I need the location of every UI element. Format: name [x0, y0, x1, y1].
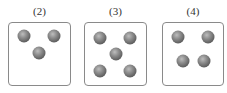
ball-icon: [202, 31, 215, 44]
panel-box: [8, 22, 71, 86]
ball-icon: [33, 47, 46, 60]
ball-icon: [94, 65, 107, 78]
panel-label: (4): [173, 5, 213, 17]
ball-icon: [172, 31, 185, 44]
ball-icon: [124, 65, 137, 78]
panel-box: [84, 22, 147, 86]
ball-icon: [177, 55, 190, 68]
panel-label: (2): [20, 5, 60, 17]
ball-icon: [198, 55, 211, 68]
panel-box: [162, 22, 224, 86]
ball-icon: [48, 30, 61, 43]
ball-icon: [94, 32, 107, 45]
panel-label: (3): [96, 5, 136, 17]
ball-icon: [124, 32, 137, 45]
ball-icon: [110, 48, 123, 61]
ball-icon: [18, 30, 31, 43]
